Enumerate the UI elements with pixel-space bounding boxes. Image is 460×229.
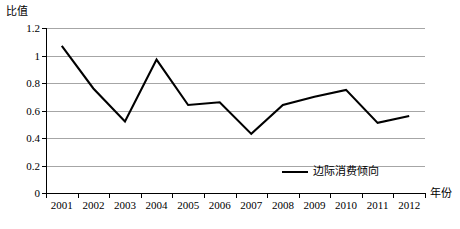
series-layer xyxy=(0,0,460,229)
legend-label: 边际消费倾向 xyxy=(313,166,379,177)
legend-line-swatch xyxy=(282,171,308,173)
line-chart: 比值 年份 00.20.40.60.811.220012002200320042… xyxy=(0,0,460,229)
legend: 边际消费倾向 xyxy=(282,166,379,177)
series-line-marginal-propensity xyxy=(62,46,409,134)
